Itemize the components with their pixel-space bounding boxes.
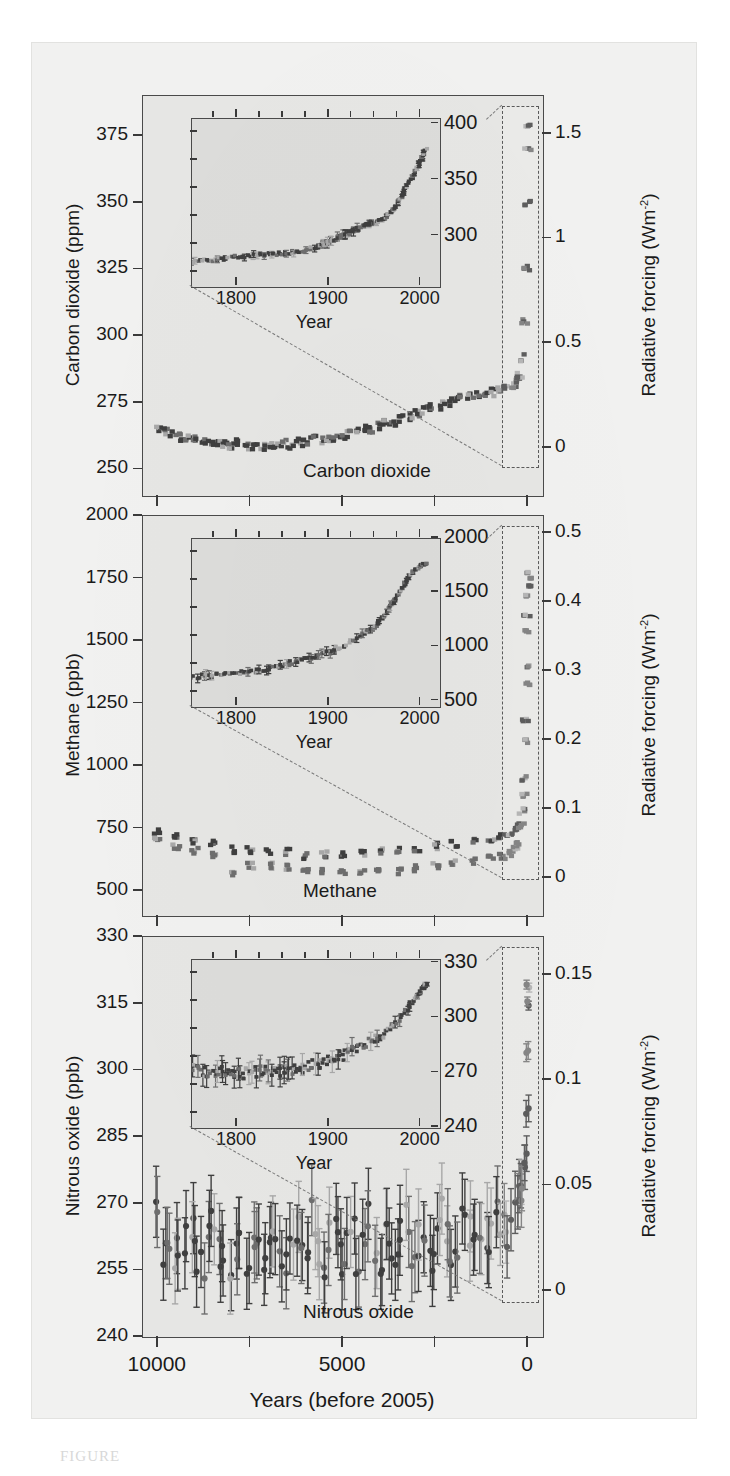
y2-axis-title-carbon-dioxide: Radiative forcing (Wm-2) [638,194,660,397]
inset-x-tick-nitrous-oxide-1 [327,950,329,958]
right-tick-carbon-dioxide-0 [542,132,551,134]
y2-axis-title-prefix: Radiative forcing (Wm [638,210,659,397]
y2-axis-title-exponent: -2 [638,1041,650,1051]
x-minor-tick-carbon-dioxide-0 [249,495,251,506]
inset-y-tick-methane-0 [431,536,438,538]
inset-y-tick-methane-1 [431,590,438,592]
inset-y-label-methane-3: 500 [444,688,514,711]
inset-x-minor-carbon-dioxide-0 [212,111,213,117]
left-tick-nitrous-oxide-4 [133,1202,142,1204]
left-tick-carbon-dioxide-3 [133,334,142,336]
left-tick-label-carbon-dioxide-0: 375 [42,123,128,145]
inset-x-minor-methane-1 [258,531,259,537]
inset-x-tick-bottom-carbon-dioxide-0 [235,277,237,285]
inset-y-minor-carbon-dioxide-3 [190,214,197,215]
inset-y-minor-methane-3 [190,634,197,635]
left-tick-label-methane-5: 750 [42,816,128,838]
left-tick-carbon-dioxide-4 [133,401,142,403]
inset-x-label-carbon-dioxide-2: 2000 [388,288,452,309]
left-tick-nitrous-oxide-1 [133,1002,142,1004]
left-tick-label-methane-0: 2000 [42,503,128,525]
left-tick-methane-4 [133,764,142,766]
inset-y-tick-nitrous-oxide-3 [431,1125,438,1127]
inset-x-label-carbon-dioxide-1: 1900 [296,288,360,309]
inset-x-minor-carbon-dioxide-3 [304,111,305,117]
zoom-highlight-box-carbon-dioxide [502,106,538,468]
inset-x-tick-bottom-nitrous-oxide-2 [419,1118,421,1126]
y-axis-title-carbon-dioxide: Carbon dioxide (ppm) [62,204,84,387]
inset-x-minor-carbon-dioxide-6 [396,111,397,117]
inset-x-tick-nitrous-oxide-0 [235,950,237,958]
inset-y-label-methane-1: 1500 [444,579,514,602]
inset-x-tick-bottom-methane-2 [419,697,421,705]
inset-y-label-nitrous-oxide-0: 330 [444,950,514,973]
left-tick-label-nitrous-oxide-4: 270 [42,1191,128,1213]
x-minor-tick-methane-1 [434,915,436,926]
left-tick-label-nitrous-oxide-0: 330 [42,924,128,946]
x-minor-tick-nitrous-oxide-1 [434,1336,436,1347]
left-tick-methane-1 [133,577,142,579]
inset-y-label-methane-0: 2000 [444,525,514,548]
inset-x-label-nitrous-oxide-2: 2000 [388,1129,452,1150]
inset-x-tick-bottom-nitrous-oxide-0 [235,1118,237,1126]
inset-x-minor-nitrous-oxide-4 [350,952,351,958]
left-tick-carbon-dioxide-2 [133,268,142,270]
left-tick-label-methane-3: 1250 [42,691,128,713]
left-tick-carbon-dioxide-0 [133,134,142,136]
y2-axis-title-prefix: Radiative forcing (Wm [638,630,659,817]
y2-axis-title-methane: Radiative forcing (Wm-2) [638,614,660,817]
inset-x-tick-methane-2 [419,529,421,537]
right-tick-methane-0 [542,531,551,533]
left-tick-nitrous-oxide-3 [133,1135,142,1137]
left-tick-label-carbon-dioxide-4: 275 [42,390,128,412]
left-tick-label-carbon-dioxide-3: 300 [42,323,128,345]
inset-x-tick-bottom-nitrous-oxide-1 [327,1118,329,1126]
inset-plot-methane [191,538,441,708]
inset-x-minor-nitrous-oxide-2 [281,952,282,958]
right-tick-label-carbon-dioxide-3: 0 [555,435,625,457]
inset-y-minor-methane-0 [190,550,197,551]
x-minor-tick-nitrous-oxide-0 [249,1336,251,1347]
right-tick-methane-3 [542,738,551,740]
inset-y-label-carbon-dioxide-1: 350 [444,167,514,190]
inset-x-minor-carbon-dioxide-5 [373,111,374,117]
inset-x-minor-nitrous-oxide-0 [212,952,213,958]
y2-axis-title-suffix: ) [638,614,659,620]
inset-y-tick-nitrous-oxide-1 [431,1016,438,1018]
right-tick-methane-4 [542,807,551,809]
inset-x-minor-methane-4 [350,531,351,537]
inset-x-tick-bottom-methane-1 [327,697,329,705]
right-tick-label-methane-1: 0.4 [555,589,625,611]
left-tick-methane-3 [133,702,142,704]
inset-x-label-nitrous-oxide-1: 1900 [296,1129,360,1150]
inset-data-layer-carbon-dioxide [192,119,440,287]
inset-x-minor-nitrous-oxide-1 [258,952,259,958]
inset-y-tick-carbon-dioxide-2 [431,234,438,236]
inset-y-minor-carbon-dioxide-1 [190,158,197,159]
inset-y-tick-carbon-dioxide-0 [431,122,438,124]
right-tick-nitrous-oxide-3 [542,1289,551,1291]
x-tick-nitrous-oxide-2 [526,1336,528,1347]
inset-x-minor-methane-0 [212,531,213,537]
left-tick-label-methane-4: 1000 [42,753,128,775]
left-tick-carbon-dioxide-1 [133,201,142,203]
inset-y-minor-methane-2 [190,606,197,607]
inset-x-minor-nitrous-oxide-3 [304,952,305,958]
left-tick-nitrous-oxide-0 [133,935,142,937]
inset-y-minor-nitrous-oxide-4 [190,1083,197,1084]
left-tick-label-nitrous-oxide-2: 300 [42,1057,128,1079]
panel-title-nitrous-oxide: Nitrous oxide [303,1301,414,1323]
inset-x-minor-carbon-dioxide-4 [350,111,351,117]
inset-y-minor-nitrous-oxide-1 [190,999,197,1000]
left-tick-label-carbon-dioxide-2: 325 [42,256,128,278]
right-tick-label-nitrous-oxide-1: 0.1 [555,1067,625,1089]
inset-x-minor-methane-6 [396,531,397,537]
inset-y-label-carbon-dioxide-0: 400 [444,111,514,134]
inset-x-tick-bottom-methane-0 [235,697,237,705]
inset-y-tick-carbon-dioxide-1 [431,178,438,180]
inset-x-minor-methane-2 [281,531,282,537]
x-tick-nitrous-oxide-1 [341,1336,343,1347]
inset-y-label-nitrous-oxide-1: 300 [444,1004,514,1027]
panel-title-methane: Methane [303,880,377,902]
x-minor-tick-methane-0 [249,915,251,926]
